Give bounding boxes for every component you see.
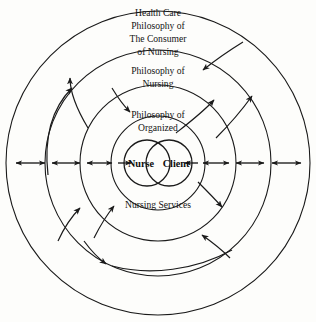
curved-arrow-upper-left-inner (70, 78, 88, 128)
curved-arrow-top-right-inward (203, 42, 243, 70)
diagram-root: Health Care Philosophy of The Consumer o… (0, 0, 316, 322)
ring-second-label-line-2: Nursing (143, 78, 174, 89)
ring-outer-label-line-2: Philosophy of (131, 20, 185, 31)
curved-arrow-lower-right-inner (198, 182, 222, 207)
curved-arrow-bottom-center (84, 241, 106, 264)
nursing-rings-diagram: Health Care Philosophy of The Consumer o… (0, 0, 316, 322)
curved-arrow-upper-left-outer (47, 88, 72, 175)
ring-outer-label-line-1: Health Care (135, 7, 181, 18)
ring-outer-label-line-4: of Nursing (137, 46, 179, 57)
ring-third-label-lower: Nursing Services (125, 199, 191, 210)
curved-arrow-lower-left-outer (58, 208, 80, 241)
curved-arrow-bottom-right (202, 235, 230, 258)
core-label-client: Client (163, 158, 190, 169)
ring-third-label-line-2: Organized (138, 122, 178, 133)
arc-bottom-outer-sweep (112, 250, 232, 271)
ring-second-label-line-1: Philosophy of (131, 65, 185, 76)
ring-outer-label-line-3: The Consumer (130, 33, 188, 44)
core-label-nurse: Nurse (128, 158, 155, 169)
ring-third-label-line-1: Philosophy of (131, 109, 185, 120)
